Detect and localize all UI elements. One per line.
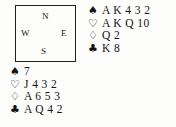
compass-label-east: E [61,29,67,38]
hand-south-diamonds-cards: A 6 5 3 [23,90,60,103]
hand-south-clubs-row: ♣ A Q 4 2 [10,103,63,116]
hand-south-clubs-cards: A Q 4 2 [23,103,63,116]
hand-south-hearts-cards: J 4 3 2 [23,78,57,91]
hand-north-diamonds-row: ♢ Q 2 [88,29,150,42]
spade-icon: ♠ [10,66,23,79]
compass-label-north: N [42,12,49,21]
hand-south-hearts-row: ♡ J 4 3 2 [10,78,63,91]
hand-north-diamonds-cards: Q 2 [101,29,120,42]
hand-north-spades-cards: A K 4 3 2 [101,4,150,17]
hand-north-clubs-cards: K 8 [101,42,120,55]
club-icon: ♣ [88,43,101,56]
hand-north: ♠ A K 4 3 2 ♡ A K Q 10 ♢ Q 2 ♣ K 8 [88,4,150,55]
hand-south-diamonds-row: ♢ A 6 5 3 [10,90,63,103]
compass-label-west: W [21,29,30,38]
spade-icon: ♠ [88,5,101,18]
hand-north-spades-row: ♠ A K 4 3 2 [88,4,150,17]
compass-label-south: S [41,47,46,56]
compass-box: N W E S [15,5,76,62]
hand-south: ♠ 7 ♡ J 4 3 2 ♢ A 6 5 3 ♣ A Q 4 2 [10,65,63,116]
hand-north-hearts-row: ♡ A K Q 10 [88,17,150,30]
bridge-hand-diagram: N W E S ♠ A K 4 3 2 ♡ A K Q 10 ♢ Q 2 ♣ K… [0,0,176,127]
hand-north-hearts-cards: A K Q 10 [101,17,150,30]
club-icon: ♣ [10,104,23,117]
hand-north-clubs-row: ♣ K 8 [88,42,150,55]
hand-south-spades-row: ♠ 7 [10,65,63,78]
hand-south-spades-cards: 7 [23,65,30,78]
